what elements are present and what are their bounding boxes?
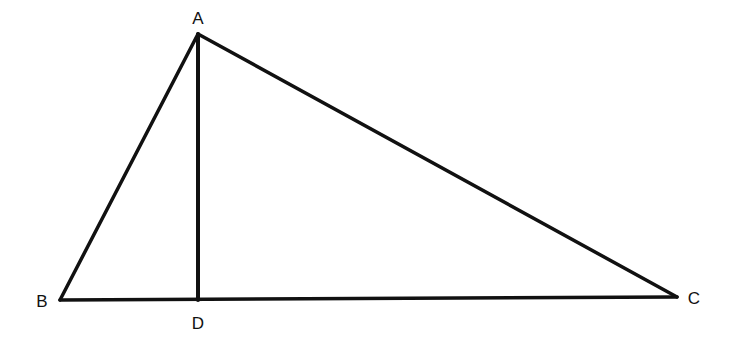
label-a: A xyxy=(192,9,204,28)
segment-bc xyxy=(60,297,677,300)
label-d: D xyxy=(192,314,204,333)
triangle-diagram: A B C D xyxy=(0,0,732,337)
label-b: B xyxy=(36,292,47,311)
segment-ab xyxy=(60,34,198,300)
label-c: C xyxy=(688,289,700,308)
segment-ac xyxy=(198,34,677,297)
